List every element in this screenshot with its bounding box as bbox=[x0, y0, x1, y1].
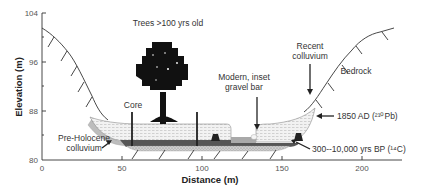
y-axis-title: Elevation (m) bbox=[13, 57, 24, 117]
radiocarbon-dated-layer bbox=[126, 146, 290, 151]
x-tick-labels: 0 50 100 150 200 bbox=[40, 164, 369, 173]
trees-label: Trees >100 yrs old bbox=[133, 18, 204, 28]
svg-text:200: 200 bbox=[355, 164, 369, 173]
gravel-bar-label-line1: Modern, inset bbox=[218, 72, 270, 82]
pb210-date-label: 1850 AD (²¹⁰Pb) bbox=[337, 111, 398, 121]
svg-text:104: 104 bbox=[25, 9, 39, 18]
valley-cross-section-diagram: 104 96 88 80 0 50 100 150 200 Distance (… bbox=[0, 0, 424, 194]
gravel-bar-clast bbox=[251, 135, 257, 140]
arrow-icon bbox=[307, 64, 313, 95]
y-tick-labels: 104 96 88 80 bbox=[25, 9, 39, 165]
gravel-bar-label-line2: gravel bar bbox=[225, 82, 263, 92]
bedrock-label: Bedrock bbox=[340, 66, 372, 76]
svg-text:88: 88 bbox=[29, 107, 38, 116]
pre-holocene-label-line2: colluvium bbox=[66, 143, 101, 153]
svg-text:150: 150 bbox=[275, 164, 289, 173]
arrow-icon bbox=[254, 97, 260, 130]
sediment-fill bbox=[88, 108, 315, 151]
core-label: Core bbox=[124, 100, 143, 110]
recent-colluvium-label-line1: Recent bbox=[297, 41, 325, 51]
tree-icon bbox=[136, 42, 188, 124]
post-1850-sediment-layer-right bbox=[256, 108, 315, 142]
svg-text:0: 0 bbox=[40, 164, 45, 173]
svg-text:96: 96 bbox=[29, 58, 38, 67]
pre-holocene-label-line1: Pre-Holocene bbox=[58, 133, 110, 143]
c14-date-label: 300--10,000 yrs BP (¹⁴C) bbox=[312, 144, 406, 154]
svg-text:80: 80 bbox=[29, 156, 38, 165]
svg-text:50: 50 bbox=[118, 164, 127, 173]
x-axis-title: Distance (m) bbox=[181, 174, 238, 185]
arrow-icon bbox=[316, 113, 334, 119]
svg-text:100: 100 bbox=[195, 164, 209, 173]
recent-colluvium-label-line2: colluvium bbox=[292, 51, 327, 61]
